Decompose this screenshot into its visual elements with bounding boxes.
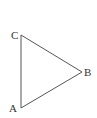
edge-c-b (21, 35, 82, 72)
vertex-label-a: A (9, 102, 17, 114)
vertex-label-c: C (11, 29, 18, 41)
edge-a-b (21, 72, 82, 108)
triangle-diagram: C B A (0, 0, 97, 118)
vertex-label-b: B (84, 66, 91, 78)
